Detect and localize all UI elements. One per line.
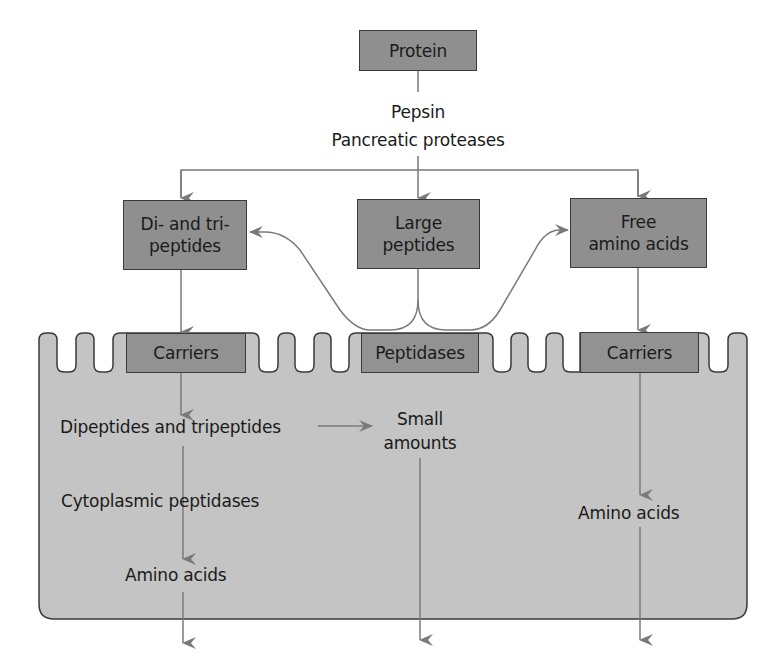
node-di-tri-peptides-line2: peptides bbox=[149, 235, 221, 257]
branch-line bbox=[181, 170, 638, 197]
node-carriers-left-label: Carriers bbox=[153, 342, 218, 364]
label-pepsin: Pepsin bbox=[368, 101, 468, 123]
node-free-amino-acids-line1: Free bbox=[621, 211, 656, 233]
node-large-peptides-line1: Large bbox=[395, 212, 442, 234]
node-di-tri-peptides-line1: Di- and tri- bbox=[141, 213, 230, 235]
label-amino-acids-left: Amino acids bbox=[125, 564, 226, 586]
node-di-tri-peptides: Di- and tri- peptides bbox=[123, 200, 247, 270]
node-free-amino-acids: Free amino acids bbox=[570, 198, 707, 268]
node-free-amino-acids-line2: amino acids bbox=[588, 233, 688, 255]
label-pancreatic-proteases: Pancreatic proteases bbox=[308, 129, 528, 151]
label-small: Small bbox=[370, 408, 470, 430]
node-peptidases-label: Peptidases bbox=[375, 342, 465, 364]
node-carriers-right: Carriers bbox=[580, 332, 699, 373]
label-cytoplasmic-peptidases: Cytoplasmic peptidases bbox=[61, 490, 259, 512]
node-carriers-right-label: Carriers bbox=[607, 342, 672, 364]
node-large-peptides: Large peptides bbox=[357, 199, 480, 269]
node-carriers-left: Carriers bbox=[126, 333, 246, 373]
label-amounts: amounts bbox=[370, 432, 470, 454]
label-dipeptides-tripeptides: Dipeptides and tripeptides bbox=[60, 416, 281, 438]
node-large-peptides-line2: peptides bbox=[383, 234, 455, 256]
node-protein-label: Protein bbox=[389, 40, 447, 62]
node-peptidases: Peptidases bbox=[361, 333, 479, 373]
node-protein: Protein bbox=[359, 30, 477, 71]
label-amino-acids-right: Amino acids bbox=[578, 502, 679, 524]
